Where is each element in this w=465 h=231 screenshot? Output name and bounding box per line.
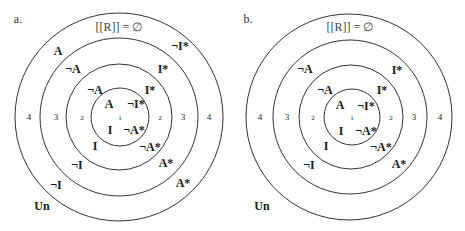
label-r2-notAstar: ¬A* xyxy=(139,140,161,154)
label-inner-notAstar: ¬A* xyxy=(123,123,145,137)
ring-4-circle xyxy=(246,14,452,220)
label-r2-I: I xyxy=(93,139,98,153)
ring-number-2-left: 2 xyxy=(311,114,315,122)
ring-number-3-left: 3 xyxy=(54,112,59,122)
label-inner-A: A xyxy=(105,97,114,111)
label-r4-notIstar: ¬I* xyxy=(171,39,189,53)
ring-number-1: 1 xyxy=(350,114,354,122)
universe-label: Un xyxy=(254,199,270,213)
label-r3-notI: ¬I xyxy=(303,158,315,172)
label-inner-I: I xyxy=(339,124,344,138)
label-r3-Astar: A* xyxy=(159,156,174,170)
universe-label: Un xyxy=(34,199,50,213)
diagram-canvas: a. [[R]] = ∅ 4 3 2 1 2 3 4 A ¬I* I ¬A* ¬… xyxy=(0,0,465,231)
label-r4-notI: ¬I xyxy=(50,178,62,192)
label-r2-Istar: I* xyxy=(377,83,388,97)
ring-number-4-left: 4 xyxy=(27,112,32,122)
label-r3-notA: ¬A xyxy=(65,62,81,76)
label-r2-I: I xyxy=(324,139,329,153)
panel-b: b. [[R]] = ∅ 4 3 2 1 2 3 4 A ¬I* I ¬A* ¬… xyxy=(244,12,453,220)
ring-number-2-right: 2 xyxy=(389,114,393,122)
label-inner-A: A xyxy=(336,98,345,112)
title-formula: [[R]] = ∅ xyxy=(96,20,143,34)
label-r2-notAstar: ¬A* xyxy=(370,140,392,154)
label-r3-Istar: I* xyxy=(392,63,403,77)
label-inner-notAstar: ¬A* xyxy=(355,124,377,138)
label-r3-Istar: I* xyxy=(158,62,169,76)
title-formula: [[R]] = ∅ xyxy=(327,20,374,34)
ring-number-3-right: 3 xyxy=(181,112,186,122)
ring-number-2-right: 2 xyxy=(158,114,162,122)
ring-number-1: 1 xyxy=(118,114,122,122)
panel-a-label: a. xyxy=(14,12,22,26)
label-r2-notA: ¬A xyxy=(87,83,103,97)
ring-number-4-left: 4 xyxy=(258,112,263,122)
label-r3-notI: ¬I xyxy=(71,158,83,172)
label-inner-notIstar: ¬I* xyxy=(127,97,145,111)
ring-number-2-left: 2 xyxy=(80,114,84,122)
ring-number-4-right: 4 xyxy=(207,112,212,122)
panel-b-label: b. xyxy=(244,12,253,26)
ring-number-3-right: 3 xyxy=(412,112,417,122)
label-r2-Istar: I* xyxy=(145,83,156,97)
label-r3-Astar: A* xyxy=(392,157,407,171)
label-r3-notA: ¬A xyxy=(297,62,313,76)
ring-number-3-left: 3 xyxy=(285,112,290,122)
label-r4-A: A xyxy=(54,44,63,58)
panel-a: a. [[R]] = ∅ 4 3 2 1 2 3 4 A ¬I* I ¬A* ¬… xyxy=(14,12,223,221)
label-r4-Astar: A* xyxy=(176,176,191,190)
label-inner-notIstar: ¬I* xyxy=(357,99,375,113)
label-r2-notA: ¬A xyxy=(317,83,333,97)
ring-number-4-right: 4 xyxy=(438,112,443,122)
label-inner-I: I xyxy=(108,123,113,137)
